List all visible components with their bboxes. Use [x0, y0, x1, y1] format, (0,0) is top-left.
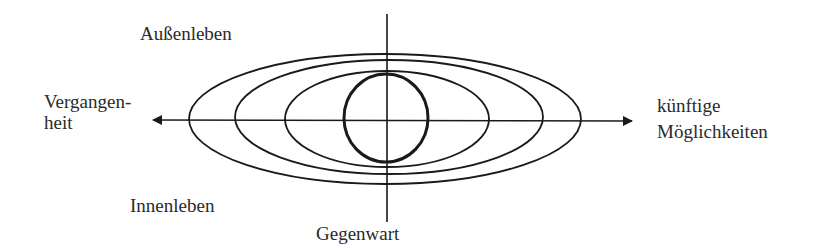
time-axis-arrow: [153, 120, 632, 121]
label-future-line2: Möglichkeiten: [657, 121, 768, 142]
label-past-line1: Vergangen-: [44, 91, 131, 112]
label-past-line2: heit: [44, 112, 73, 133]
inner-circle: [344, 74, 428, 162]
label-outer-life: Außenleben: [140, 23, 232, 44]
label-future-line1: künftige: [657, 95, 720, 116]
label-present: Gegenwart: [316, 223, 399, 244]
label-inner-life: Innenleben: [130, 195, 214, 216]
second-ellipse: [235, 60, 543, 174]
